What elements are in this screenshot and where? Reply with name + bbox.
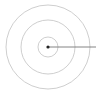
concentric-circles-diagram bbox=[0, 0, 96, 93]
center-dot bbox=[46, 45, 49, 48]
